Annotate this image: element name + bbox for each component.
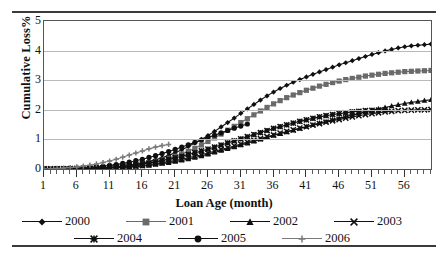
legend-item-2005[interactable]: 2005 xyxy=(172,231,276,246)
x-tick-label: 56 xyxy=(398,178,410,193)
x-minor-tick xyxy=(410,170,411,174)
x-minor-tick xyxy=(89,170,90,174)
x-minor-tick xyxy=(378,170,379,174)
x-tick-label: 51 xyxy=(365,178,377,193)
plus-marker-icon xyxy=(282,232,322,246)
x-minor-tick xyxy=(63,170,64,174)
x-major-tick xyxy=(305,170,306,177)
x-minor-tick xyxy=(50,170,51,174)
chart-legend: 2000200120022003200420052006 xyxy=(0,214,448,246)
circle-marker-icon xyxy=(178,232,218,246)
legend-row: 2000200120022003 xyxy=(0,214,448,229)
gridline xyxy=(44,139,431,140)
x-minor-tick xyxy=(299,170,300,174)
diamond-marker-icon xyxy=(22,215,62,229)
star-marker-icon xyxy=(74,232,114,246)
x-minor-tick xyxy=(155,170,156,174)
x-minor-tick xyxy=(56,170,57,174)
x-minor-tick xyxy=(246,170,247,174)
x-minor-tick xyxy=(292,170,293,174)
y-tick-label: 5 xyxy=(19,13,41,28)
x-major-tick xyxy=(207,170,208,177)
x-tick-label: 21 xyxy=(168,178,180,193)
x-marker-icon xyxy=(334,215,374,229)
plot-area xyxy=(43,20,432,170)
x-minor-tick xyxy=(384,170,385,174)
x-minor-tick xyxy=(168,170,169,174)
x-minor-tick xyxy=(214,170,215,174)
top-rule xyxy=(12,11,436,13)
legend-item-2003[interactable]: 2003 xyxy=(328,214,432,229)
y-tick-label: 3 xyxy=(19,72,41,87)
legend-label: 2006 xyxy=(322,231,350,246)
x-minor-tick xyxy=(391,170,392,174)
x-minor-tick xyxy=(279,170,280,174)
x-minor-tick xyxy=(82,170,83,174)
x-major-tick xyxy=(404,170,405,177)
x-tick-label: 31 xyxy=(234,178,246,193)
legend-label: 2000 xyxy=(62,214,90,229)
legend-item-2002[interactable]: 2002 xyxy=(224,214,328,229)
legend-label: 2002 xyxy=(270,214,298,229)
x-minor-tick xyxy=(332,170,333,174)
x-minor-tick xyxy=(122,170,123,174)
x-tick-label: 6 xyxy=(73,178,79,193)
x-major-tick xyxy=(174,170,175,177)
legend-label: 2003 xyxy=(374,214,402,229)
chart-figure: Cumulative Loss% 012345 1611162126313641… xyxy=(0,14,448,242)
x-major-tick xyxy=(338,170,339,177)
x-minor-tick xyxy=(128,170,129,174)
y-axis-ticks: 012345 xyxy=(13,14,41,174)
y-tick-label: 0 xyxy=(19,161,41,176)
x-minor-tick xyxy=(286,170,287,174)
x-minor-tick xyxy=(220,170,221,174)
legend-label: 2005 xyxy=(218,231,246,246)
x-minor-tick xyxy=(266,170,267,174)
x-minor-tick xyxy=(345,170,346,174)
gridline xyxy=(44,110,431,111)
x-major-tick xyxy=(371,170,372,177)
x-tick-label: 26 xyxy=(201,178,213,193)
x-tick-label: 46 xyxy=(332,178,344,193)
x-minor-tick xyxy=(423,170,424,174)
legend-item-2001[interactable]: 2001 xyxy=(120,214,224,229)
x-major-tick xyxy=(240,170,241,177)
figure-page: Cumulative Loss% 012345 1611162126313641… xyxy=(0,0,448,263)
x-minor-tick xyxy=(69,170,70,174)
x-minor-tick xyxy=(397,170,398,174)
x-minor-tick xyxy=(181,170,182,174)
x-minor-tick xyxy=(318,170,319,174)
x-minor-tick xyxy=(358,170,359,174)
series-2001 xyxy=(43,68,432,170)
x-minor-tick xyxy=(148,170,149,174)
x-major-tick xyxy=(109,170,110,177)
x-tick-label: 41 xyxy=(299,178,311,193)
x-minor-tick xyxy=(95,170,96,174)
x-axis-label: Loan Age (month) xyxy=(0,196,448,211)
y-tick-label: 2 xyxy=(19,101,41,116)
legend-item-2006[interactable]: 2006 xyxy=(276,231,380,246)
legend-item-2004[interactable]: 2004 xyxy=(68,231,172,246)
x-axis-ticks xyxy=(43,170,432,177)
x-tick-label: 36 xyxy=(267,178,279,193)
x-minor-tick xyxy=(161,170,162,174)
x-minor-tick xyxy=(227,170,228,174)
square-marker-icon xyxy=(126,215,166,229)
x-minor-tick xyxy=(312,170,313,174)
x-major-tick xyxy=(273,170,274,177)
legend-item-2000[interactable]: 2000 xyxy=(16,214,120,229)
x-minor-tick xyxy=(364,170,365,174)
series-layer xyxy=(44,21,431,169)
legend-row: 200420052006 xyxy=(0,231,448,246)
x-minor-tick xyxy=(253,170,254,174)
x-minor-tick xyxy=(135,170,136,174)
x-minor-tick xyxy=(115,170,116,174)
x-tick-label: 1 xyxy=(40,178,46,193)
x-major-tick xyxy=(141,170,142,177)
x-minor-tick xyxy=(259,170,260,174)
x-minor-tick xyxy=(102,170,103,174)
x-tick-label: 16 xyxy=(135,178,147,193)
x-minor-tick xyxy=(325,170,326,174)
gridline xyxy=(44,80,431,81)
y-tick-label: 4 xyxy=(19,42,41,57)
